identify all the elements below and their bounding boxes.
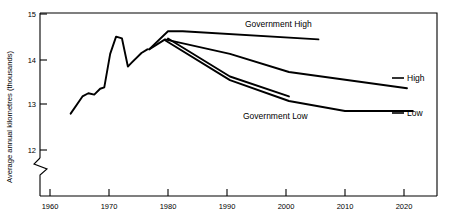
x-tick-label: 2010: [337, 202, 354, 211]
x-tick-label: 1970: [101, 202, 118, 211]
x-tick-labels: 1960 1970 1980 1990 2000 2010 2020: [42, 202, 413, 211]
series-line-low: [165, 40, 413, 111]
low-label: Low: [407, 108, 423, 118]
x-ticks: [50, 189, 404, 196]
y-tick-label: 13: [28, 100, 36, 109]
y-tick-labels: 15 14 13 12: [28, 10, 36, 155]
x-tick-label: 1960: [42, 202, 59, 211]
government-high-label: Government High: [245, 19, 312, 29]
chart-figure: 15 14 13 12 1960 1970 1980 1990 2000 201…: [0, 0, 452, 214]
plot-frame: [40, 13, 437, 196]
y-tick-label: 14: [28, 56, 36, 65]
series-line-government-low: [168, 38, 289, 96]
x-tick-label: 1980: [160, 202, 177, 211]
y-tick-label: 12: [28, 146, 36, 155]
series-line-high: [149, 39, 407, 88]
x-tick-label: 2020: [396, 202, 413, 211]
y-tick-label: 15: [28, 10, 36, 19]
government-low-label: Government Low: [243, 111, 309, 121]
high-label: High: [407, 73, 425, 83]
series-layer: [71, 31, 413, 113]
series-line-historical: [71, 37, 148, 114]
line-chart-svg: 15 14 13 12 1960 1970 1980 1990 2000 201…: [0, 0, 452, 214]
y-axis-title: Average annual kilometres (thousands): [5, 51, 14, 183]
y-axis-break: [34, 158, 47, 196]
y-ticks: [40, 14, 47, 150]
x-tick-label: 2000: [278, 202, 295, 211]
x-tick-label: 1990: [219, 202, 236, 211]
